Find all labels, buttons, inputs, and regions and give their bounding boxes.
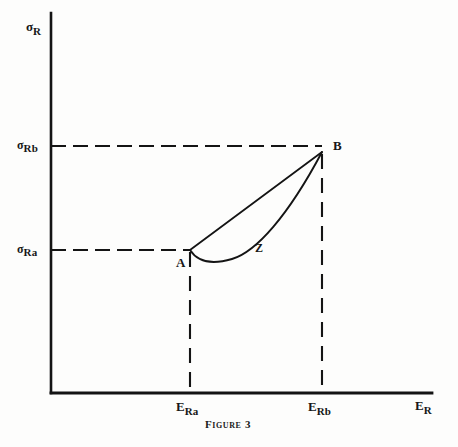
chord-line-ab xyxy=(190,152,322,250)
x-tick-label-e-ra: ERa xyxy=(176,400,199,417)
x-tick-label-e-rb: ERb xyxy=(308,400,331,417)
x-axis-title-sub: R xyxy=(424,404,432,416)
plot-canvas xyxy=(0,0,458,447)
curve-annotation-z: Z xyxy=(255,242,263,254)
figure-container: σR σRb σRa ERa ERb ER A B Z Figure 3 xyxy=(0,0,458,447)
point-label-b: B xyxy=(333,139,342,152)
y-axis-title: σR xyxy=(26,20,41,37)
y-tick-sigma-rb-sub: Rb xyxy=(24,142,38,154)
x-tick-e-rb-base: E xyxy=(308,399,317,414)
x-tick-e-ra-sub: Ra xyxy=(185,405,199,417)
x-axis-title-base: E xyxy=(415,398,424,413)
figure-caption: Figure 3 xyxy=(205,419,251,430)
y-axis-title-sub: R xyxy=(33,25,41,37)
x-axis-title: ER xyxy=(415,399,432,416)
y-tick-label-sigma-rb: σRb xyxy=(17,138,38,154)
x-tick-e-rb-sub: Rb xyxy=(317,405,331,417)
y-tick-sigma-ra-sub: Ra xyxy=(24,246,38,258)
x-tick-e-ra-base: E xyxy=(176,399,185,414)
y-tick-label-sigma-ra: σRa xyxy=(17,242,37,258)
point-label-a: A xyxy=(176,256,185,269)
